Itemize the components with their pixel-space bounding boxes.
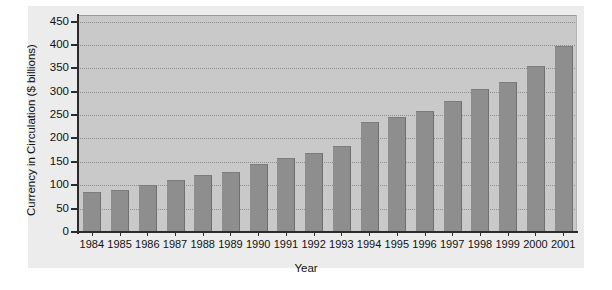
bar <box>333 146 351 233</box>
y-axis-tick <box>71 21 79 23</box>
bar <box>388 117 406 233</box>
plot-right-border <box>576 15 577 233</box>
bar <box>361 122 379 233</box>
bar <box>250 164 268 233</box>
bar <box>139 185 157 233</box>
x-axis-tick <box>175 232 176 236</box>
bar <box>471 89 489 233</box>
y-axis-tick <box>71 114 79 116</box>
y-axis-tick <box>71 137 79 139</box>
gridline <box>78 68 577 69</box>
plot-area <box>78 16 577 233</box>
x-axis-line <box>77 231 578 233</box>
y-axis-tick <box>71 91 79 93</box>
x-axis-tick <box>147 232 148 236</box>
bar <box>499 82 517 233</box>
x-axis-tick <box>452 232 453 236</box>
y-axis-tick <box>71 208 79 210</box>
x-axis-tick <box>258 232 259 236</box>
bar <box>194 175 212 233</box>
bar <box>416 111 434 233</box>
y-axis-line <box>77 14 79 234</box>
x-axis-tick <box>535 232 536 236</box>
x-axis-tick <box>286 232 287 236</box>
x-axis-tick <box>314 232 315 236</box>
x-axis-tick <box>480 232 481 236</box>
bar <box>444 101 462 233</box>
bar <box>555 46 573 233</box>
y-axis-tick <box>71 161 79 163</box>
x-axis-tick <box>203 232 204 236</box>
gridline <box>78 22 577 23</box>
y-axis-title: Currency in Circulation ($ billions) <box>25 15 37 245</box>
y-axis-tick <box>71 231 79 233</box>
bar <box>527 66 545 233</box>
x-axis-tick <box>425 232 426 236</box>
x-axis-tick <box>563 232 564 236</box>
x-axis-tick <box>92 232 93 236</box>
bar <box>83 192 101 233</box>
y-axis-tick <box>71 184 79 186</box>
plot-top-border <box>78 15 577 16</box>
gridline <box>78 45 577 46</box>
bar <box>305 153 323 233</box>
bar <box>111 190 129 233</box>
bar-chart: 050100150200250300350400450 198419851986… <box>0 0 612 290</box>
bar <box>277 158 295 233</box>
y-axis-tick <box>71 67 79 69</box>
bar <box>222 172 240 233</box>
x-axis-title: Year <box>0 262 612 274</box>
x-axis-tick <box>341 232 342 236</box>
y-axis-tick <box>71 44 79 46</box>
x-axis-tick <box>508 232 509 236</box>
x-axis-tick-label: 2001 <box>546 238 580 250</box>
bar <box>167 180 185 233</box>
x-axis-tick <box>230 232 231 236</box>
x-axis-tick <box>120 232 121 236</box>
x-axis-tick <box>369 232 370 236</box>
x-axis-tick <box>397 232 398 236</box>
